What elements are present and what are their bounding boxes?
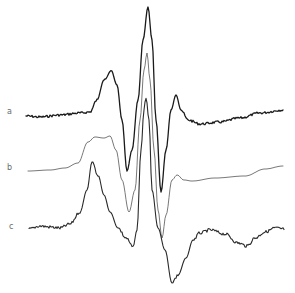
trace-label-c: c [9,223,13,231]
trace-label-b: b [7,164,12,172]
spectra-figure [0,0,295,293]
trace-a [26,7,283,192]
trace-label-a: a [7,108,12,116]
